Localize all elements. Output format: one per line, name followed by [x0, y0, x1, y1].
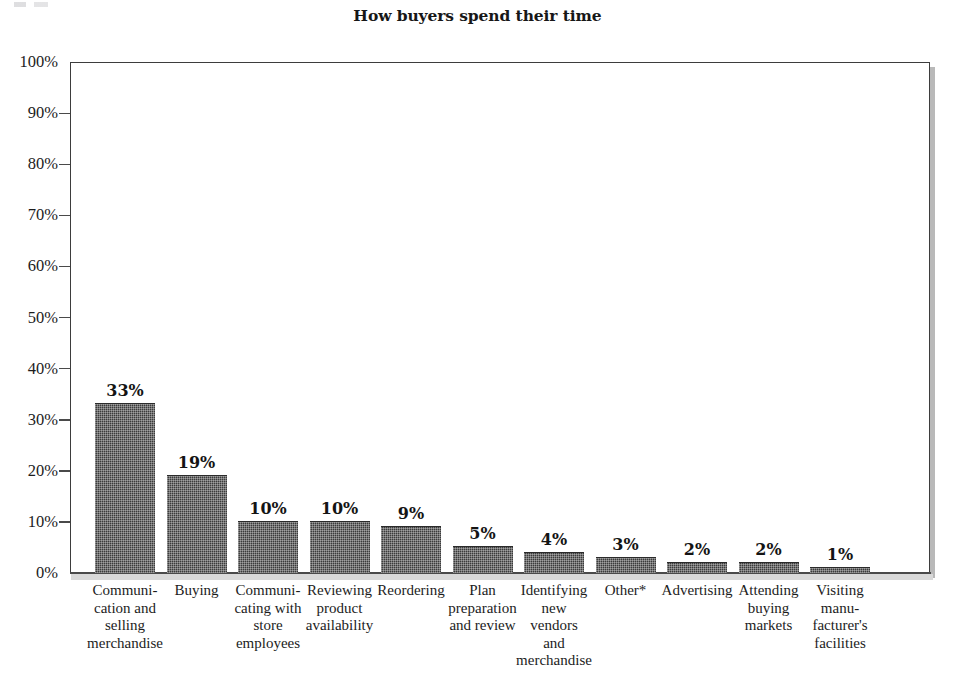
bar-group: 9% [381, 62, 441, 573]
bars-layer: 33%19%10%10%9%5%4%3%2%2%1% [70, 62, 930, 573]
y-axis-tick-label: 70% [28, 205, 58, 225]
bar-group: 5% [453, 62, 513, 573]
y-axis-tick-mark [59, 521, 70, 522]
y-axis-tick-mark [59, 419, 70, 420]
y-axis-tick-mark [59, 368, 70, 369]
y-axis-tick-mark [59, 164, 70, 165]
y-axis-tick-label: 10% [28, 512, 58, 532]
y-axis-tick-mark [59, 266, 70, 267]
bar [453, 546, 513, 573]
y-axis-tick-label: 20% [28, 461, 58, 481]
y-axis-tick-label: 30% [28, 410, 58, 430]
y-axis-tick-label: 80% [28, 154, 58, 174]
bar-value-label: 19% [145, 453, 249, 472]
bar-value-label: 33% [73, 381, 177, 400]
y-axis-tick-label: 0% [36, 563, 58, 583]
bar-group: 10% [238, 62, 298, 573]
y-axis-tick-label: 50% [28, 308, 58, 328]
x-axis-labels: Communi-cation andsellingmerchandiseBuyi… [70, 582, 930, 682]
x-axis-category-label: Visitingmanu-facturer'sfacilities [784, 582, 896, 652]
y-axis-tick-mark [59, 113, 70, 114]
bar-value-label: 1% [788, 545, 892, 564]
bar [238, 521, 298, 573]
bar-group: 2% [667, 62, 727, 573]
bar-group: 19% [167, 62, 227, 573]
y-axis-tick-label: 90% [28, 103, 58, 123]
bar [667, 562, 727, 573]
y-axis-tick-label: 40% [28, 359, 58, 379]
bar [167, 475, 227, 573]
y-axis-tick-mark [59, 317, 70, 318]
chart-title: How buyers spend their time [0, 6, 955, 25]
y-axis-tick-label: 60% [28, 256, 58, 276]
bar-group: 33% [95, 62, 155, 573]
y-axis-tick-mark [59, 215, 70, 216]
y-axis-tick-label: 100% [20, 52, 59, 72]
bar [310, 521, 370, 573]
y-axis: 100%90%80%70%60%50%40%30%20%10%0% [0, 62, 70, 573]
x-axis-shadow [71, 574, 933, 580]
bar-group: 1% [810, 62, 870, 573]
bar-group: 3% [596, 62, 656, 573]
bar-value-label: 9% [359, 504, 463, 523]
bar [810, 567, 870, 573]
chart-figure: How buyers spend their time 100%90%80%70… [0, 0, 955, 684]
bar-group: 4% [524, 62, 584, 573]
bar [95, 403, 155, 573]
bar-group: 10% [310, 62, 370, 573]
bar [596, 557, 656, 573]
bar-group: 2% [739, 62, 799, 573]
bar [524, 552, 584, 573]
y-axis-tick-mark [59, 470, 70, 471]
